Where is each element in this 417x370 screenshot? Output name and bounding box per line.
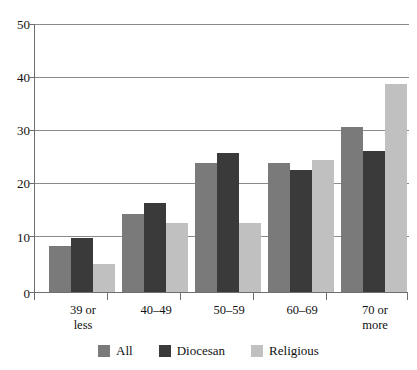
y-tick-10 [29,236,35,237]
y-axis-tick-label: 30 [4,124,30,137]
legend-swatch-icon [159,345,171,357]
bar-all [268,163,290,292]
x-axis-separator [34,293,35,300]
y-axis-tick-label: 40 [4,71,30,84]
bar-religious [239,223,261,292]
x-axis-category-label: 70 or more [330,303,417,333]
x-axis-separator [326,293,327,300]
y-axis-tick-label: 0 [4,287,30,300]
bar-all [49,246,71,292]
legend-swatch-icon [98,345,110,357]
bar-all [195,163,217,292]
bar-diocesan [144,203,166,292]
legend-label: All [116,344,133,357]
y-axis-tick-label: 20 [4,177,30,190]
x-axis-separator [253,293,254,300]
plot-area [34,24,408,293]
y-tick-20 [29,183,35,184]
x-axis-category-line1: 70 or [330,303,417,318]
bar-diocesan [71,238,93,292]
x-axis-separator [107,293,108,300]
chart-legend: All Diocesan Religious [0,344,417,357]
bar-religious [385,84,407,292]
bar-group [195,23,265,292]
bar-group [122,23,192,292]
bar-diocesan [363,151,385,292]
bar-religious [166,223,188,292]
bar-all [122,214,144,292]
y-tick-30 [29,130,35,131]
bar-group [268,23,338,292]
legend-swatch-icon [251,345,263,357]
bar-chart: 50 40 30 20 10 0 [0,0,417,370]
y-axis-labels: 50 40 30 20 10 0 [0,0,30,370]
bar-all [341,127,363,292]
bar-diocesan [290,170,312,292]
x-axis-category-line2: more [330,318,417,333]
bar-religious [312,160,334,292]
y-tick-40 [29,77,35,78]
bar-group [341,23,411,292]
bar-diocesan [217,153,239,292]
bar-group [49,23,119,292]
legend-label: Diocesan [177,344,225,357]
legend-item-diocesan: Diocesan [159,344,225,357]
legend-item-religious: Religious [251,344,319,357]
y-tick-50 [29,24,35,25]
legend-label: Religious [269,344,319,357]
x-axis-separator [180,293,181,300]
legend-item-all: All [98,344,133,357]
x-axis-separator [407,293,408,300]
y-axis-tick-label: 50 [4,18,30,31]
bar-religious [93,264,115,292]
y-axis-tick-label: 10 [4,231,30,244]
x-axis-category-line2: less [38,318,128,333]
